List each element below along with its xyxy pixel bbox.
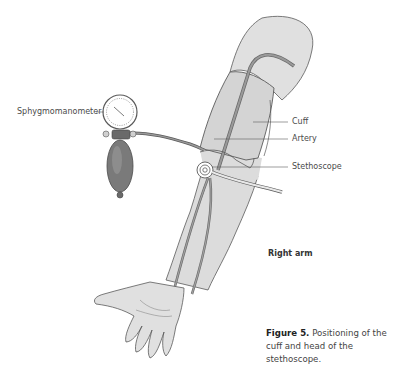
figure-caption: Figure 5. Positioning of the cuff and he… xyxy=(266,327,400,366)
label-cuff: Cuff xyxy=(292,117,308,126)
hand-shape xyxy=(94,282,184,358)
label-artery: Artery xyxy=(292,134,317,143)
arm-illustration xyxy=(0,0,400,369)
cuff-shape xyxy=(200,72,274,160)
stethoscope-head xyxy=(197,162,213,178)
manometer-tube xyxy=(128,133,204,150)
label-sphygmomanometer: Sphygmomanometer xyxy=(17,107,101,116)
label-stethoscope: Stethoscope xyxy=(292,162,342,171)
valve-body xyxy=(112,130,130,139)
label-right-arm: Right arm xyxy=(268,249,313,258)
figure-number: Figure 5. xyxy=(266,328,309,338)
